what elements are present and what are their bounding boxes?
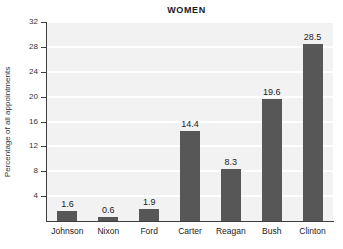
bar[interactable] <box>180 131 200 221</box>
bar[interactable] <box>221 169 241 221</box>
bar[interactable] <box>57 211 77 221</box>
bar-value-label: 14.4 <box>165 119 215 129</box>
y-tick-mark <box>41 122 46 123</box>
y-tick-mark <box>41 22 46 23</box>
y-tick-mark <box>41 146 46 147</box>
chart-title: WOMEN <box>40 5 333 15</box>
x-axis-category-label: Clinton <box>283 226 343 236</box>
y-tick-mark <box>41 171 46 172</box>
bar-value-label: 28.5 <box>288 32 338 42</box>
y-tick-mark <box>41 72 46 73</box>
y-axis-label: Percentage of all appointments <box>3 66 12 176</box>
y-tick-mark <box>41 97 46 98</box>
bar-value-label: 1.9 <box>124 197 174 207</box>
gridline <box>47 46 333 48</box>
bar[interactable] <box>303 44 323 221</box>
y-tick-label: 8 <box>14 166 38 175</box>
y-tick-label: 24 <box>14 67 38 76</box>
y-tick-mark <box>41 47 46 48</box>
y-tick-label: 32 <box>14 17 38 26</box>
gridline <box>47 22 333 23</box>
bar-chart: WOMEN Percentage of all appointments 481… <box>0 0 343 249</box>
y-tick-label: 16 <box>14 117 38 126</box>
bar[interactable] <box>262 99 282 221</box>
y-tick-mark <box>41 196 46 197</box>
y-axis-label-container: Percentage of all appointments <box>0 22 14 221</box>
gridline <box>47 71 333 73</box>
x-axis-line <box>46 221 334 222</box>
y-tick-label: 4 <box>14 191 38 200</box>
y-tick-label: 20 <box>14 92 38 101</box>
y-tick-label: 12 <box>14 141 38 150</box>
bar-value-label: 19.6 <box>247 87 297 97</box>
bar[interactable] <box>139 209 159 221</box>
y-tick-label: 28 <box>14 42 38 51</box>
bar-value-label: 8.3 <box>206 157 256 167</box>
y-axis-line <box>46 22 47 222</box>
